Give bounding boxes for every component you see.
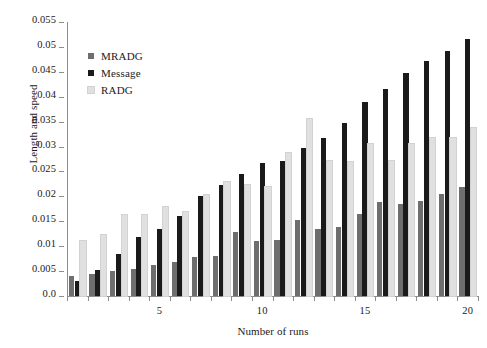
bar-message <box>260 163 265 297</box>
bar-radg <box>265 187 270 296</box>
legend-item-message: Message <box>88 64 143 81</box>
bar-radg <box>348 162 353 297</box>
y-tick-mark <box>59 246 64 247</box>
bar-group <box>151 22 168 296</box>
y-tick-mark <box>59 196 64 197</box>
bar-mradg <box>274 240 279 296</box>
bar-mradg <box>336 227 341 296</box>
bar-radg <box>307 119 312 296</box>
y-tick-label: 0.0 <box>43 288 56 299</box>
legend-swatch-icon <box>88 53 94 59</box>
legend-label: RADG <box>101 84 133 96</box>
x-tick-mark <box>190 296 191 301</box>
bar-radg <box>142 215 147 296</box>
bar-group <box>439 22 456 296</box>
x-tick-mark <box>211 296 212 301</box>
x-tick-mark <box>478 296 479 301</box>
x-tick-mark <box>149 296 150 301</box>
x-tick-label: 20 <box>453 305 483 316</box>
bar-radg <box>409 144 414 296</box>
bar-group <box>315 22 332 296</box>
legend-swatch-icon <box>88 70 94 76</box>
y-tick-label: 0.02 <box>37 188 56 199</box>
bar-radg <box>80 241 85 296</box>
bar-message <box>321 138 326 296</box>
bar-mradg <box>315 229 320 296</box>
bar-radg <box>183 212 188 296</box>
legend: MRADGMessageRADG <box>88 47 143 98</box>
x-tick-mark <box>67 296 68 301</box>
x-tick-mark <box>375 296 376 301</box>
bar-message <box>445 51 450 296</box>
bar-group <box>274 22 291 296</box>
bar-group <box>418 22 435 296</box>
bar-mradg <box>89 274 94 296</box>
bar-chart: Length and speed 0.00.0050.010.0150.020.… <box>0 0 487 348</box>
legend-label: MRADG <box>101 50 143 62</box>
bar-group <box>398 22 415 296</box>
y-tick-mark <box>59 171 64 172</box>
bar-mradg <box>377 202 382 296</box>
y-tick-label: 0.035 <box>32 114 56 125</box>
bar-message <box>116 254 121 296</box>
bar-mradg <box>151 265 156 296</box>
bar-message <box>362 102 367 296</box>
bar-radg <box>471 128 476 296</box>
y-tick-label: 0.025 <box>32 163 56 174</box>
bar-mradg <box>439 194 444 296</box>
bar-mradg <box>295 220 300 296</box>
bar-message <box>403 73 408 296</box>
x-tick-mark <box>129 296 130 301</box>
bar-message <box>280 161 285 297</box>
bar-message <box>198 196 203 296</box>
bar-message <box>424 61 429 296</box>
bar-radg <box>224 182 229 296</box>
bar-mradg <box>233 232 238 296</box>
x-tick-mark <box>273 296 274 301</box>
y-tick-mark <box>59 122 64 123</box>
x-tick-mark <box>88 296 89 301</box>
bar-message <box>136 237 141 296</box>
bar-group <box>233 22 250 296</box>
x-tick-label: 10 <box>247 305 277 316</box>
bar-message <box>219 185 224 296</box>
bar-mradg <box>172 262 177 296</box>
bar-group <box>254 22 271 296</box>
bar-group <box>192 22 209 296</box>
y-tick-mark <box>59 22 64 23</box>
bar-message <box>301 148 306 296</box>
x-tick-label: 5 <box>144 305 174 316</box>
x-tick-mark <box>293 296 294 301</box>
bar-mradg <box>110 271 115 296</box>
bar-message <box>383 89 388 296</box>
legend-item-mradg: MRADG <box>88 47 143 64</box>
bar-radg <box>368 144 373 296</box>
bar-radg <box>286 153 291 296</box>
legend-label: Message <box>101 67 141 79</box>
bar-radg <box>163 207 168 296</box>
y-tick-label: 0.045 <box>32 64 56 75</box>
bar-message <box>177 216 182 296</box>
bar-group <box>357 22 374 296</box>
bar-mradg <box>69 276 74 296</box>
bar-message <box>465 39 470 296</box>
bar-group <box>377 22 394 296</box>
y-tick-mark <box>59 97 64 98</box>
bar-radg <box>450 138 455 296</box>
bar-message <box>95 270 100 296</box>
bar-message <box>239 174 244 296</box>
bar-mradg <box>192 257 197 296</box>
y-tick-label: 0.005 <box>32 263 56 274</box>
x-tick-label: 15 <box>350 305 380 316</box>
bar-group <box>336 22 353 296</box>
bar-message <box>342 123 347 296</box>
bar-mradg <box>398 204 403 296</box>
bar-radg <box>389 161 394 297</box>
x-tick-mark <box>170 296 171 301</box>
y-tick-label: 0.04 <box>37 89 56 100</box>
x-tick-mark <box>437 296 438 301</box>
bar-message <box>157 229 162 296</box>
y-tick-mark <box>59 47 64 48</box>
x-tick-mark <box>355 296 356 301</box>
legend-item-radg: RADG <box>88 81 143 98</box>
